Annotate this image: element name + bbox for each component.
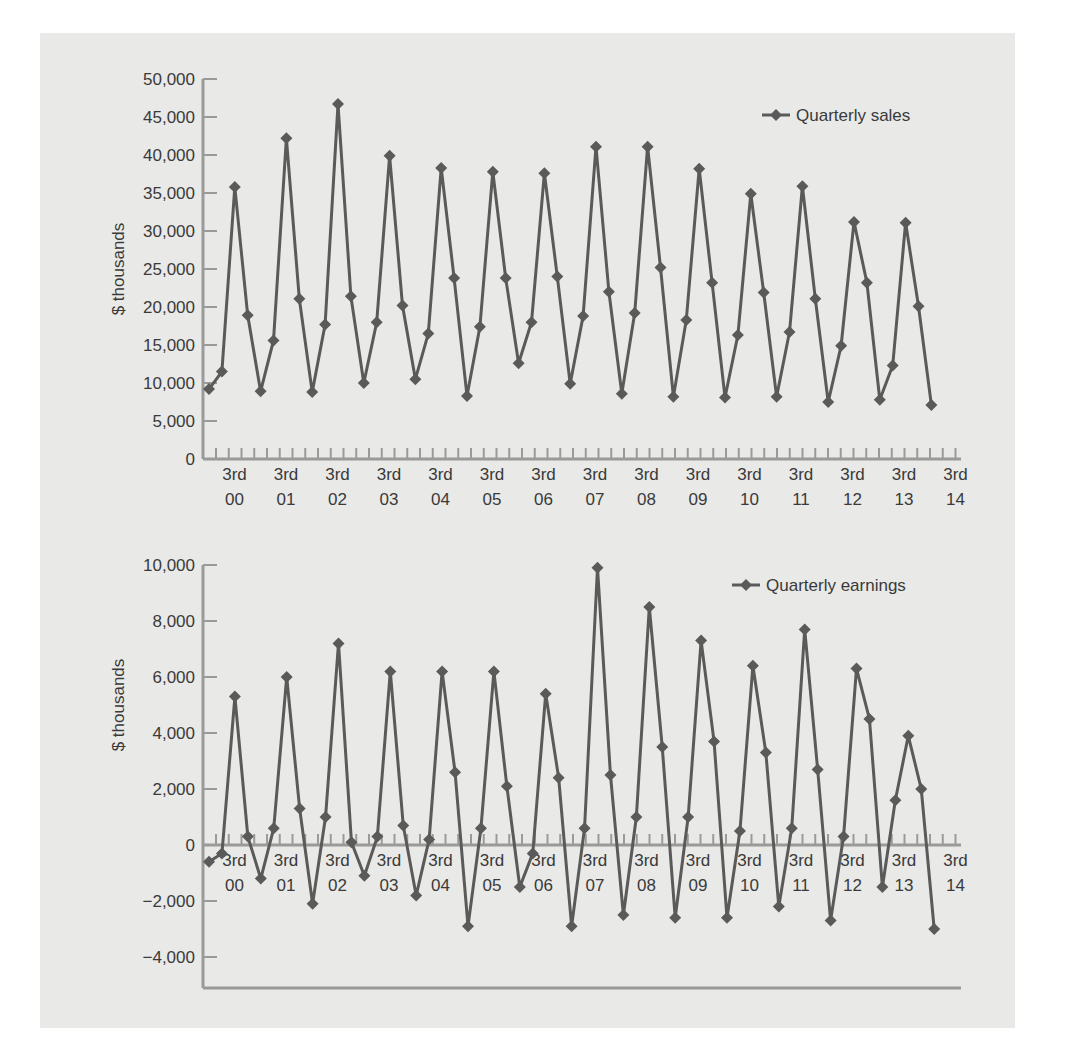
x-tick-label-quarter: 3rd	[789, 465, 814, 484]
x-tick-label-quarter: 3rd	[892, 851, 917, 870]
data-point-diamond-marker	[553, 772, 565, 784]
data-point-diamond-marker	[229, 691, 241, 703]
data-point-diamond-marker	[280, 132, 292, 144]
data-point-diamond-marker	[242, 309, 254, 321]
data-point-diamond-marker	[630, 811, 642, 823]
x-tick-label-year: 09	[689, 490, 708, 509]
data-point-diamond-marker	[474, 321, 486, 333]
x-tick-label-year: 04	[431, 490, 450, 509]
y-tick-label: 10,000	[143, 374, 195, 393]
data-point-diamond-marker	[590, 141, 602, 153]
x-tick-label-quarter: 3rd	[274, 465, 299, 484]
y-tick-label: 10,000	[143, 556, 195, 575]
quarterly-earnings-chart: −4,000−2,00002,0004,0006,0008,00010,0003…	[109, 556, 968, 988]
data-point-diamond-marker	[822, 396, 834, 408]
y-tick-label: 20,000	[143, 298, 195, 317]
x-tick-label-year: 10	[740, 490, 759, 509]
data-point-diamond-marker	[848, 216, 860, 228]
data-point-diamond-marker	[876, 881, 888, 893]
x-tick-label-year: 03	[380, 876, 399, 895]
y-tick-label: 40,000	[143, 146, 195, 165]
data-point-diamond-marker	[500, 272, 512, 284]
data-point-diamond-marker	[812, 763, 824, 775]
x-tick-label-year: 04	[431, 876, 450, 895]
data-point-diamond-marker	[721, 912, 733, 924]
x-tick-label-year: 11	[792, 876, 810, 895]
data-point-diamond-marker	[384, 150, 396, 162]
data-point-diamond-marker	[487, 166, 499, 178]
y-tick-label: 4,000	[152, 724, 195, 743]
data-point-diamond-marker	[229, 181, 241, 193]
data-point-diamond-marker	[925, 399, 937, 411]
x-tick-label-year: 10	[740, 876, 759, 895]
x-tick-label-quarter: 3rd	[531, 465, 556, 484]
data-point-diamond-marker	[540, 688, 552, 700]
y-tick-label: 2,000	[152, 780, 195, 799]
x-tick-label-year: 07	[586, 490, 605, 509]
y-tick-label: 0	[186, 836, 195, 855]
x-tick-label-year: 03	[380, 490, 399, 509]
data-point-diamond-marker	[358, 377, 370, 389]
data-point-diamond-marker	[887, 360, 899, 372]
x-tick-label-quarter: 3rd	[789, 851, 814, 870]
data-point-diamond-marker	[307, 898, 319, 910]
data-point-diamond-marker	[436, 665, 448, 677]
data-point-diamond-marker	[409, 373, 421, 385]
data-point-diamond-marker	[514, 881, 526, 893]
data-point-diamond-marker	[799, 623, 811, 635]
y-axis-title: $ thousands	[109, 223, 128, 316]
y-tick-label: 0	[186, 450, 195, 469]
data-point-diamond-marker	[616, 388, 628, 400]
x-tick-label-quarter: 3rd	[583, 851, 608, 870]
data-point-diamond-marker	[371, 316, 383, 328]
x-tick-label-quarter: 3rd	[943, 851, 968, 870]
legend-label: Quarterly earnings	[766, 576, 906, 595]
data-point-diamond-marker	[397, 299, 409, 311]
x-tick-label-quarter: 3rd	[840, 465, 865, 484]
data-point-diamond-marker	[526, 316, 538, 328]
data-point-diamond-marker	[268, 334, 280, 346]
data-point-diamond-marker	[577, 310, 589, 322]
data-point-diamond-marker	[913, 300, 925, 312]
x-tick-label-year: 02	[328, 490, 347, 509]
x-tick-label-year: 06	[534, 490, 553, 509]
x-tick-label-quarter: 3rd	[480, 851, 505, 870]
legend: Quarterly earnings	[732, 576, 906, 595]
y-tick-label: 15,000	[143, 336, 195, 355]
data-point-diamond-marker	[333, 637, 345, 649]
x-tick-label-year: 08	[637, 876, 656, 895]
y-tick-label: 6,000	[152, 668, 195, 687]
x-tick-label-year: 13	[895, 490, 914, 509]
data-point-diamond-marker	[695, 635, 707, 647]
data-point-diamond-marker	[294, 803, 306, 815]
x-tick-label-year: 05	[483, 876, 502, 895]
data-point-diamond-marker	[669, 912, 681, 924]
x-tick-label-year: 06	[534, 876, 553, 895]
data-point-diamond-marker	[835, 340, 847, 352]
data-point-diamond-marker	[758, 287, 770, 299]
series-line	[209, 568, 934, 929]
data-point-diamond-marker	[320, 811, 332, 823]
data-point-diamond-marker	[592, 562, 604, 574]
x-tick-label-year: 14	[946, 876, 965, 895]
data-point-diamond-marker	[319, 318, 331, 330]
data-point-diamond-marker	[851, 663, 863, 675]
data-point-diamond-marker	[771, 391, 783, 403]
data-point-diamond-marker	[745, 188, 757, 200]
data-point-diamond-marker	[332, 98, 344, 110]
data-point-diamond-marker	[242, 831, 254, 843]
x-tick-label-quarter: 3rd	[480, 465, 505, 484]
data-point-diamond-marker	[513, 357, 525, 369]
data-point-diamond-marker	[747, 660, 759, 672]
y-axis-title: $ thousands	[109, 659, 128, 752]
data-point-diamond-marker	[825, 915, 837, 927]
data-point-diamond-marker	[293, 293, 305, 305]
x-tick-label-quarter: 3rd	[634, 465, 659, 484]
data-point-diamond-marker	[928, 923, 940, 935]
data-point-diamond-marker	[448, 272, 460, 284]
y-tick-label: −2,000	[143, 892, 195, 911]
legend: Quarterly sales	[762, 106, 910, 125]
data-point-diamond-marker	[629, 307, 641, 319]
x-tick-label-quarter: 3rd	[840, 851, 865, 870]
data-point-diamond-marker	[838, 831, 850, 843]
